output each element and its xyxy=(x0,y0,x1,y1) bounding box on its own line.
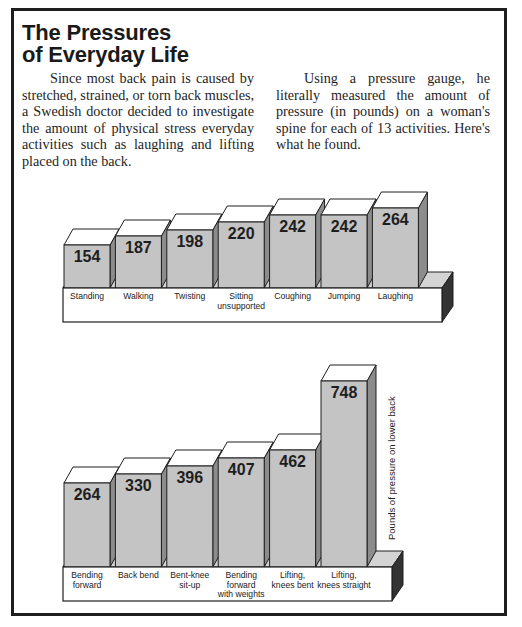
bar: 264 xyxy=(64,467,119,567)
category-label: unsupported xyxy=(217,301,265,311)
category-label: Coughing xyxy=(274,291,311,301)
bar-value-label: 264 xyxy=(382,211,409,228)
bar-value-label: 407 xyxy=(228,461,255,478)
bar-top-face xyxy=(321,199,376,215)
bar: 198 xyxy=(167,214,222,288)
category-label: Bent-knee xyxy=(170,570,209,580)
category-label: sit-up xyxy=(179,580,200,590)
bar-top-face xyxy=(270,434,325,450)
bar-top-face xyxy=(64,467,119,483)
category-label: Standing xyxy=(70,291,104,301)
category-label: Lifting, xyxy=(331,570,356,580)
bar: 242 xyxy=(321,199,376,288)
bar-top-face xyxy=(167,450,222,466)
bar-value-label: 748 xyxy=(331,384,358,401)
bar-top-face xyxy=(270,199,325,215)
bar-top-face xyxy=(167,214,222,230)
bar: 264 xyxy=(372,192,427,288)
bar: 220 xyxy=(218,206,273,288)
bar: 407 xyxy=(218,442,273,567)
y-axis-label: Pounds of pressure on lower back xyxy=(386,396,397,540)
bar-top-face xyxy=(372,192,427,208)
bar-value-label: 264 xyxy=(74,486,101,503)
category-label: Bending xyxy=(71,570,103,580)
category-label: Sitting xyxy=(229,291,253,301)
category-label: knees straight xyxy=(317,580,371,590)
bar: 462 xyxy=(270,434,325,567)
category-label: forward xyxy=(227,580,256,590)
bar: 242 xyxy=(270,199,325,288)
category-label: Back bend xyxy=(118,570,159,580)
bar-top-face xyxy=(321,365,376,381)
bar: 154 xyxy=(64,229,119,288)
category-label: Walking xyxy=(123,291,153,301)
bar-value-label: 220 xyxy=(228,225,255,242)
bar-value-label: 242 xyxy=(279,218,306,235)
category-label: Twisting xyxy=(174,291,205,301)
bar-value-label: 242 xyxy=(331,218,358,235)
category-label: with weights xyxy=(217,589,265,599)
chart-1: 154187198220242242264StandingWalkingTwis… xyxy=(63,192,453,322)
bar-charts: 154187198220242242264StandingWalkingTwis… xyxy=(0,0,522,627)
bar-value-label: 187 xyxy=(125,239,152,256)
category-label: forward xyxy=(73,580,102,590)
bar-top-face xyxy=(64,229,119,245)
bar-value-label: 396 xyxy=(176,469,203,486)
bar-front-face xyxy=(321,381,367,567)
bar-value-label: 198 xyxy=(176,233,203,250)
category-label: Bending xyxy=(225,570,257,580)
bar: 396 xyxy=(167,450,222,567)
bar-value-label: 462 xyxy=(279,453,306,470)
category-label: Laughing xyxy=(378,291,414,301)
bar-value-label: 154 xyxy=(74,248,101,265)
bar-value-label: 330 xyxy=(125,477,152,494)
category-label: Lifting, xyxy=(280,570,305,580)
bar-top-face xyxy=(115,220,170,236)
bar-top-face xyxy=(218,442,273,458)
bar-top-face xyxy=(115,458,170,474)
bar: 748 xyxy=(321,365,376,567)
category-label: Jumping xyxy=(328,291,361,301)
category-label: knees bent xyxy=(272,580,315,590)
bar: 330 xyxy=(115,458,170,567)
bar: 187 xyxy=(115,220,170,288)
bar-side-face xyxy=(367,365,376,567)
bar-top-face xyxy=(218,206,273,222)
chart-2: 264330396407462748BendingforwardBack ben… xyxy=(63,365,403,601)
